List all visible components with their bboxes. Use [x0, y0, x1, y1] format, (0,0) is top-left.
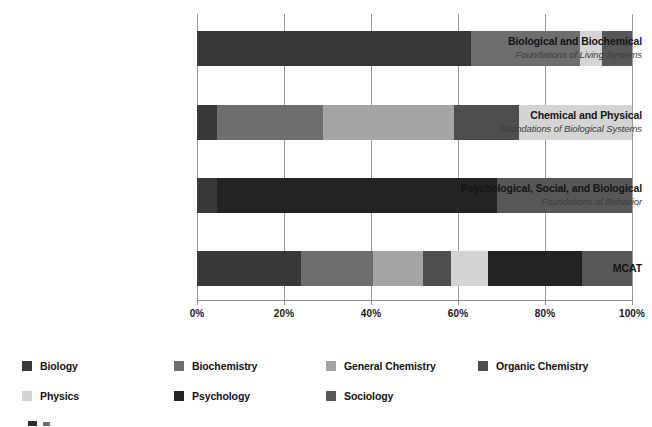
bar-segment-biology: [197, 31, 471, 66]
bar-segment-biochemistry: [301, 251, 373, 286]
x-tick-mark-100%: [632, 300, 633, 305]
page-edge-artifact-secondary: [43, 422, 50, 426]
legend-item-general-chemistry[interactable]: General Chemistry: [326, 358, 436, 374]
bar-segment-biology: [197, 251, 301, 286]
x-tick-label: 100%: [602, 308, 652, 319]
x-tick-label: 80%: [515, 308, 575, 319]
chart-legend: BiologyBiochemistryGeneral ChemistryOrga…: [22, 358, 642, 414]
x-tick-label: 60%: [428, 308, 488, 319]
legend-swatch-icon: [22, 361, 32, 371]
legend-swatch-icon: [326, 391, 336, 401]
bar-segment-biochemistry: [217, 105, 324, 140]
category-label: Psychological, Social, and BiologicalFou…: [455, 182, 652, 208]
x-tick-label: 0%: [167, 308, 227, 319]
legend-swatch-icon: [174, 391, 184, 401]
category-label-main: MCAT: [455, 262, 642, 275]
legend-label: Organic Chemistry: [496, 360, 588, 372]
category-label-sub: Foundations of Behavior: [455, 195, 642, 208]
legend-swatch-icon: [22, 391, 32, 401]
category-label-sub: Foundations of Biological Systems: [455, 122, 642, 135]
legend-item-organic-chemistry[interactable]: Organic Chemistry: [478, 358, 588, 374]
bar-segment-biology: [197, 178, 217, 213]
legend-item-physics[interactable]: Physics: [22, 388, 79, 404]
legend-swatch-icon: [174, 361, 184, 371]
x-tick-label: 40%: [341, 308, 401, 319]
x-tick-mark-60%: [458, 300, 459, 305]
bar-segment-general-chemistry: [323, 105, 454, 140]
legend-item-biology[interactable]: Biology: [22, 358, 78, 374]
category-label: Biological and BiochemicalFoundations of…: [455, 35, 652, 61]
category-label: Chemical and PhysicalFoundations of Biol…: [455, 109, 652, 135]
x-axis-line: [197, 300, 633, 301]
legend-label: Psychology: [192, 390, 250, 402]
bar-segment-biology: [197, 105, 217, 140]
legend-swatch-icon: [478, 361, 488, 371]
legend-item-biochemistry[interactable]: Biochemistry: [174, 358, 257, 374]
x-tick-mark-80%: [545, 300, 546, 305]
category-label-main: Chemical and Physical: [455, 109, 642, 122]
bar-segment-organic-chemistry: [423, 251, 451, 286]
category-label: MCAT: [455, 262, 652, 275]
category-label-sub: Foundations of Living Systems: [455, 48, 642, 61]
page-edge-artifact: [28, 421, 37, 426]
x-tick-mark-40%: [371, 300, 372, 305]
category-label-main: Biological and Biochemical: [455, 35, 642, 48]
x-tick-mark-0%: [197, 300, 198, 305]
stacked-bar-chart: 0%20%40%60%80%100% Biological and Bioche…: [0, 0, 652, 427]
x-tick-label: 20%: [254, 308, 314, 319]
legend-item-sociology[interactable]: Sociology: [326, 388, 393, 404]
legend-swatch-icon: [326, 361, 336, 371]
legend-label: Sociology: [344, 390, 393, 402]
bar-segment-general-chemistry: [373, 251, 423, 286]
legend-label: Physics: [40, 390, 79, 402]
legend-item-psychology[interactable]: Psychology: [174, 388, 250, 404]
legend-label: Biology: [40, 360, 78, 372]
legend-label: Biochemistry: [192, 360, 257, 372]
x-tick-mark-20%: [284, 300, 285, 305]
legend-label: General Chemistry: [344, 360, 436, 372]
category-label-main: Psychological, Social, and Biological: [455, 182, 642, 195]
